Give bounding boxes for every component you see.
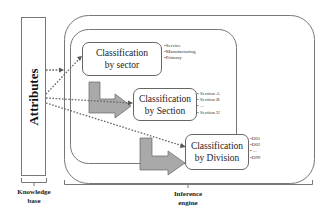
section-list: • Section A • Section B • ... • Section … <box>197 91 220 116</box>
attributes-label: Attributes <box>26 68 42 125</box>
knowledge-base-caption-line1: Knowledge <box>10 188 58 197</box>
classification-sector-box: Classification by sector <box>82 42 162 76</box>
sector-list: •Service •Manufacturing •Primary <box>164 43 195 62</box>
list-item: •Primary <box>164 55 195 61</box>
section-title-line1: Classification <box>139 93 191 105</box>
division-list: •D01 •D02 • ... •D99 <box>250 136 260 161</box>
inference-engine-caption: Inference engine <box>163 190 213 208</box>
division-title-line2: by Division <box>195 152 240 164</box>
knowledge-base-bracket <box>22 178 47 186</box>
l-arrow-2 <box>140 138 185 175</box>
division-title-line1: Classification <box>191 140 243 152</box>
arrowhead-icon <box>59 68 64 73</box>
knowledge-base-caption-line2: base <box>10 197 58 206</box>
l-arrow-1 <box>89 82 131 118</box>
list-item: • Section U <box>197 110 220 116</box>
list-item: •D99 <box>250 155 260 161</box>
dotted-to-sector <box>46 58 80 94</box>
section-title-line2: by Section <box>145 105 185 117</box>
knowledge-base-caption: Knowledge base <box>10 188 58 206</box>
classification-division-box: Classification by Division <box>185 134 249 170</box>
inference-engine-bracket <box>65 180 313 188</box>
inference-engine-caption-line2: engine <box>163 199 213 208</box>
sector-title-line1: Classification <box>96 47 148 59</box>
inference-engine-caption-line1: Inference <box>163 190 213 199</box>
attributes-box: Attributes <box>21 17 46 176</box>
sector-title-line2: by sector <box>105 59 140 71</box>
classification-section-box: Classification by Section <box>133 88 197 121</box>
